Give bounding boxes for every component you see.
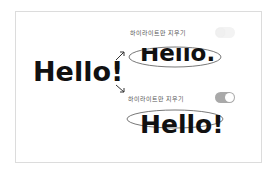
toggle-knob (225, 93, 234, 102)
erase-highlight-toggle-on[interactable] (215, 92, 235, 103)
toggle-knob (216, 28, 225, 37)
arrow-down-right-icon (116, 85, 124, 92)
arrows-and-highlights (0, 0, 275, 176)
arrow-up-right-icon (116, 52, 124, 60)
result-bottom-text: Hello! (140, 110, 224, 139)
result-top-text: Hello. (140, 48, 215, 65)
option-label-top: 하이라이트만 지우기 (130, 28, 186, 37)
result-top-clipped: Hello. (138, 48, 218, 68)
erase-highlight-toggle-off[interactable] (215, 27, 235, 38)
option-label-bottom: 하이라이트만 지우기 (128, 94, 184, 103)
